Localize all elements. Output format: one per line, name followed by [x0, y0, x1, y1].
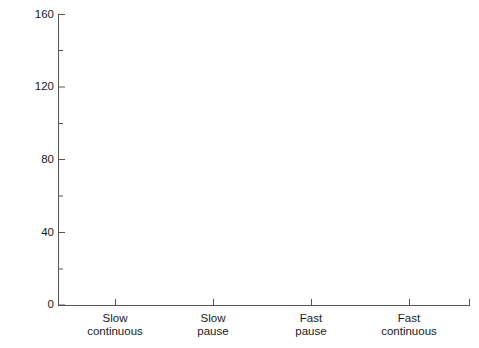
plot-area [0, 0, 479, 348]
x-category-label-line1: Slow [197, 312, 228, 325]
x-category-label-line1: Fast [381, 312, 437, 325]
plot-background [58, 14, 470, 305]
chart-container: Rate pressure product 160 120 80 40 0 [0, 0, 479, 348]
x-category-label-fast-pause: Fast pause [295, 312, 326, 338]
x-category-label-line2: continuous [87, 325, 143, 338]
x-category-label-line1: Slow [87, 312, 143, 325]
x-category-label-line2: pause [197, 325, 228, 338]
x-category-label-slow-pause: Slow pause [197, 312, 228, 338]
x-category-label-line2: pause [295, 325, 326, 338]
x-category-label-fast-continuous: Fast continuous [381, 312, 437, 338]
x-category-label-slow-continuous: Slow continuous [87, 312, 143, 338]
x-category-label-line2: continuous [381, 325, 437, 338]
x-category-label-line1: Fast [295, 312, 326, 325]
